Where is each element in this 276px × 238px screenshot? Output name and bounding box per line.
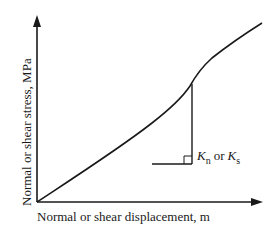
right-angle-marker-icon <box>184 156 192 164</box>
x-axis-arrow-icon <box>251 198 263 206</box>
k-subscript-s: s <box>236 155 240 166</box>
stiffness-label: KnorKs <box>196 148 240 166</box>
y-axis-arrow-icon <box>33 15 41 27</box>
diagram-canvas: KnorKs Normal or shear displacement, m N… <box>0 0 276 238</box>
x-axis-label: Normal or shear displacement, m <box>37 209 210 224</box>
stress-displacement-curve <box>37 23 262 202</box>
or-word: or <box>214 148 226 163</box>
k-subscript-n: n <box>206 155 211 166</box>
stress-displacement-diagram: KnorKs Normal or shear displacement, m N… <box>0 0 276 238</box>
y-axis-label: Normal or shear stress, MPa <box>19 58 34 206</box>
